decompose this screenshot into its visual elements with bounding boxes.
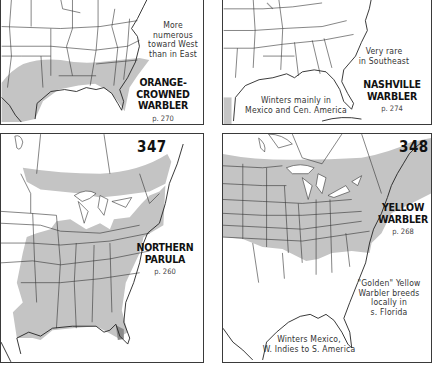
- species-name-line: NASHVILLE: [359, 79, 425, 91]
- species-name-line: PARULA: [125, 254, 204, 266]
- species-name-line: WARBLER: [373, 214, 432, 226]
- plate-number: 347: [137, 138, 167, 156]
- plate-number: 348: [399, 138, 429, 156]
- note-line: s. Florida: [353, 308, 425, 318]
- winter-note: Winters mainly in Mexico and Cen. Americ…: [241, 96, 351, 115]
- species-name-line: WARBLER: [119, 100, 204, 112]
- species-name-line: WARBLER: [359, 91, 425, 103]
- range-note: More numerous toward West than in East: [143, 21, 203, 59]
- note-line: in Southeast: [351, 57, 417, 67]
- map-panel-northern-parula: 347 NORTHERN PARULA p. 260: [0, 133, 204, 363]
- map-panel-orange-crowned-warbler: More numerous toward West than in East O…: [0, 0, 204, 125]
- range-note: "Golden" Yellow Warbler breeds locally i…: [353, 279, 425, 317]
- page-reference: p. 274: [359, 104, 425, 113]
- map-panel-nashville-warbler: Very rare in Southeast Winters mainly in…: [222, 0, 432, 125]
- range-note: Very rare in Southeast: [351, 47, 417, 66]
- note-line: than in East: [143, 50, 203, 60]
- note-line: Mexico and Cen. America: [241, 106, 351, 116]
- species-label: ORANGE-CROWNED WARBLER p. 270: [119, 77, 204, 123]
- page-reference: p. 270: [119, 114, 204, 123]
- species-label: YELLOW WARBLER p. 268: [373, 202, 432, 236]
- species-name-line: YELLOW: [373, 202, 432, 214]
- note-line: W. Indies to S. America: [261, 345, 357, 355]
- species-name-line: NORTHERN: [125, 242, 204, 254]
- species-label: NASHVILLE WARBLER p. 274: [359, 79, 425, 113]
- winter-note: Winters Mexico, W. Indies to S. America: [261, 335, 357, 354]
- page-reference: p. 268: [373, 227, 432, 236]
- page-reference: p. 260: [125, 267, 204, 276]
- species-name-line: ORANGE-CROWNED: [119, 77, 204, 100]
- range-map-yellow: [223, 134, 431, 362]
- species-label: NORTHERN PARULA p. 260: [125, 242, 204, 276]
- map-panel-yellow-warbler: 348 YELLOW WARBLER p. 268 "Golden" Yello…: [222, 133, 432, 363]
